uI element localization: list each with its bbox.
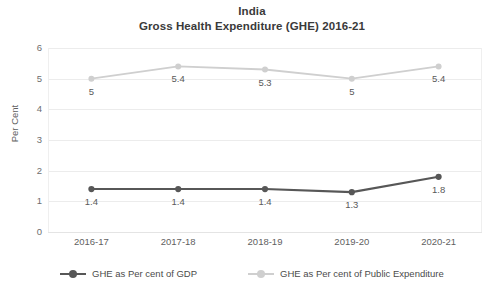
x-axis-ticks: 2016-172017-182018-192019-202020-21 <box>48 236 482 252</box>
gridline <box>48 232 482 233</box>
chart-figure: India Gross Health Expenditure (GHE) 201… <box>0 0 504 294</box>
y-tick-label: 0 <box>2 226 42 237</box>
data-point-label: 1.4 <box>61 196 121 207</box>
data-point-marker <box>349 189 355 195</box>
chart-title-block: India Gross Health Expenditure (GHE) 201… <box>0 4 504 34</box>
plot-area: 1.41.41.41.31.855.45.355.4 <box>48 48 482 232</box>
data-point-label: 5.4 <box>409 73 469 84</box>
y-tick-label: 5 <box>2 73 42 84</box>
chart-title: India <box>0 4 504 19</box>
data-point-marker <box>436 63 442 69</box>
data-point-marker <box>349 76 355 82</box>
y-axis-ticks: 6543210 <box>0 48 42 232</box>
x-tick-label: 2018-19 <box>225 236 305 247</box>
data-point-marker <box>88 76 94 82</box>
legend-item[interactable]: GHE as Per cent of GDP <box>60 266 197 280</box>
chart-legend: GHE as Per cent of GDPGHE as Per cent of… <box>48 262 488 286</box>
y-tick-label: 1 <box>2 195 42 206</box>
data-point-label: 1.4 <box>235 196 295 207</box>
data-point-label: 5 <box>61 86 121 97</box>
legend-label: GHE as Per cent of Public Expenditure <box>280 268 444 279</box>
y-tick-label: 3 <box>2 134 42 145</box>
data-point-marker <box>175 186 181 192</box>
legend-marker-icon <box>60 268 86 278</box>
y-tick-label: 2 <box>2 165 42 176</box>
data-point-marker <box>88 186 94 192</box>
data-point-label: 1.8 <box>409 184 469 195</box>
data-point-marker <box>175 63 181 69</box>
x-tick-label: 2020-21 <box>399 236 479 247</box>
chart-subtitle: Gross Health Expenditure (GHE) 2016-21 <box>0 19 504 34</box>
data-point-label: 1.3 <box>322 199 382 210</box>
y-tick-label: 4 <box>2 103 42 114</box>
legend-item[interactable]: GHE as Per cent of Public Expenditure <box>248 266 444 280</box>
y-tick-label: 6 <box>2 42 42 53</box>
x-tick-label: 2016-17 <box>51 236 131 247</box>
data-point-label: 1.4 <box>148 196 208 207</box>
data-point-marker <box>262 186 268 192</box>
data-point-label: 5 <box>322 86 382 97</box>
legend-marker-icon <box>248 268 274 278</box>
legend-label: GHE as Per cent of GDP <box>92 268 197 279</box>
x-tick-label: 2017-18 <box>138 236 218 247</box>
data-point-label: 5.4 <box>148 73 208 84</box>
data-point-label: 5.3 <box>235 77 295 88</box>
data-point-marker <box>262 66 268 72</box>
data-point-marker <box>436 174 442 180</box>
x-tick-label: 2019-20 <box>312 236 392 247</box>
